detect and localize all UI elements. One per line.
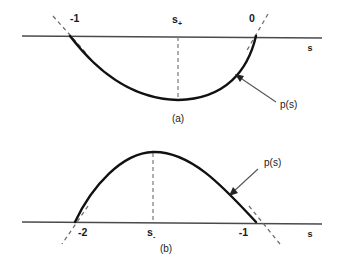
- panel-b-dashed-tangent-right: [249, 206, 280, 244]
- panel-b-tick-label-center-subscript: -: [153, 233, 156, 240]
- panel-a: -1 s + 0 s p(s) (a): [22, 12, 322, 124]
- panel-b-ps-leader-line: [233, 169, 258, 192]
- panel-a-ps-arrowhead-icon: [235, 74, 244, 82]
- panel-a-function-label-ps: p(s): [280, 99, 297, 110]
- panel-a-tick-label-left: -1: [70, 12, 79, 24]
- panel-a-tick-label-center-subscript: +: [178, 20, 182, 27]
- panel-b-curve-ps: [75, 152, 256, 222]
- figure-container: -1 s + 0 s p(s) (a): [0, 0, 338, 268]
- panel-b-tick-label-center-group: s -: [147, 226, 156, 240]
- panel-b-tick-label-right: -1: [239, 226, 248, 238]
- panel-a-axis-line: [22, 36, 322, 38]
- panel-a-axis-label-s: s: [307, 43, 312, 53]
- panel-b-caption: (b): [160, 243, 172, 254]
- panel-b: -2 s - -1 s p(s) (b): [22, 152, 322, 254]
- panel-b-axis-label-s: s: [307, 229, 312, 239]
- panel-b-function-label-ps: p(s): [264, 157, 281, 168]
- panel-b-tick-label-left: -2: [78, 226, 87, 238]
- figure-svg: -1 s + 0 s p(s) (a): [0, 0, 338, 268]
- panel-b-dashed-tangent-left: [62, 206, 88, 244]
- panel-a-curve-ps: [70, 36, 256, 100]
- panel-a-caption: (a): [172, 113, 184, 124]
- panel-a-tick-label-center-group: s +: [172, 13, 182, 27]
- panel-a-ps-leader-line: [239, 77, 276, 102]
- panel-b-axis-line: [22, 222, 322, 224]
- panel-a-tick-label-right: 0: [249, 12, 255, 24]
